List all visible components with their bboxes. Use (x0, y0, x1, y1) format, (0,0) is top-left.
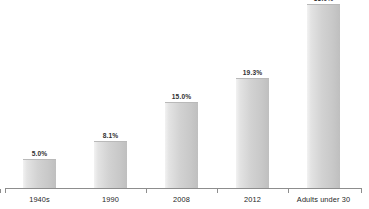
bar-value-label: 5.0% (8, 150, 71, 157)
bar[interactable] (94, 141, 127, 188)
plot-area: 5.0% 8.1% 15.0% 19.3% 33.0% (0, 0, 369, 188)
bar-group: 5.0% (8, 0, 71, 188)
x-axis-line (5, 188, 362, 189)
bar-group: 15.0% (150, 0, 213, 188)
axis-tick (0, 189, 1, 193)
category-label: Adults under 30 (286, 195, 361, 204)
bar[interactable] (307, 4, 340, 188)
bar-value-label: 8.1% (79, 132, 142, 139)
bar-group: 33.0% (292, 0, 355, 188)
axis-end-cap-right (361, 189, 362, 193)
category-label: 2012 (215, 195, 290, 204)
axis-tick (217, 189, 218, 193)
bar-value-label: 33.0% (292, 0, 355, 2)
bar-group: 8.1% (79, 0, 142, 188)
bar-value-label: 19.3% (221, 69, 284, 76)
bar-value-label: 15.0% (150, 93, 213, 100)
category-label: 2008 (144, 195, 219, 204)
bar[interactable] (165, 102, 198, 188)
axis-tick (288, 189, 289, 193)
bar-chart: 5.0% 8.1% 15.0% 19.3% 33.0% 1940s (0, 0, 369, 209)
axis-end-cap-left (5, 189, 6, 193)
category-label: 1940s (2, 195, 77, 204)
category-labels: 1940s 1990 2008 2012 Adults under 30 (0, 195, 369, 209)
category-label: 1990 (73, 195, 148, 204)
bar[interactable] (23, 159, 56, 188)
bar[interactable] (236, 78, 269, 188)
axis-tick (146, 189, 147, 193)
bar-group: 19.3% (221, 0, 284, 188)
